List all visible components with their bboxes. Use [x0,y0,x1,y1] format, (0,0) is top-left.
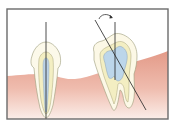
diagram-svg [0,0,175,127]
dental-axis-diagram: Tooth long axis: upright vs tilted tooth [0,0,175,127]
